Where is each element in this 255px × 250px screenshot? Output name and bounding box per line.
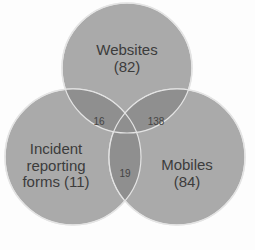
incident-mobiles-value: 19 (110, 168, 140, 179)
mobiles-title: Mobiles (150, 157, 224, 174)
websites-title: Websites (87, 42, 167, 59)
venn-circles (0, 0, 255, 250)
incident-forms-line3: forms (11) (8, 174, 104, 191)
websites-mobiles-value: 138 (141, 116, 171, 127)
websites-incident-value: 16 (84, 116, 114, 127)
mobiles-label: Mobiles (84) (150, 157, 224, 190)
incident-forms-line2: reporting (8, 158, 104, 175)
incident-forms-line1: Incident (8, 141, 104, 158)
incident-forms-label: Incident reporting forms (11) (8, 141, 104, 191)
websites-label: Websites (82) (87, 42, 167, 75)
mobiles-count: (84) (150, 174, 224, 191)
websites-count: (82) (87, 59, 167, 76)
venn-diagram: Websites (82) Mobiles (84) Incident repo… (0, 0, 255, 250)
